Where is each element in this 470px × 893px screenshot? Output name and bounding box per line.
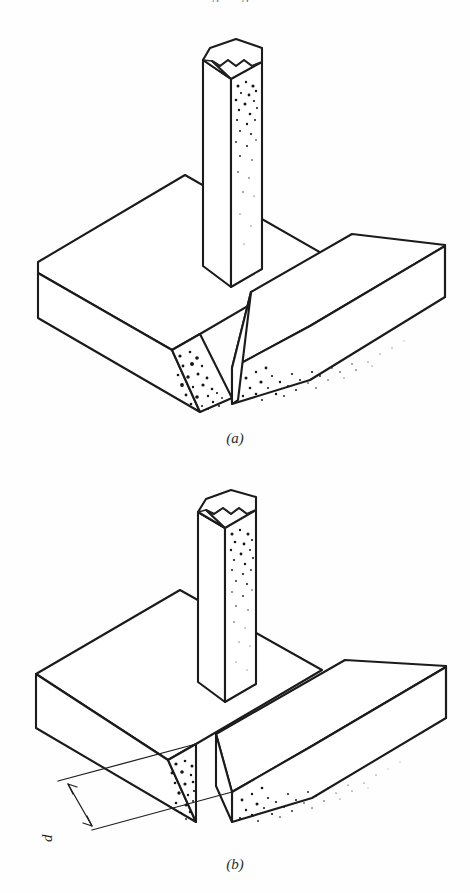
figure-panel-a xyxy=(0,0,470,470)
figure-caption-b: (b) xyxy=(0,856,470,873)
figure-caption-a: (a) xyxy=(0,430,470,447)
vertical-bar-a xyxy=(203,39,262,287)
root-opening-label: d xyxy=(39,834,55,842)
figure-panel-b: d xyxy=(0,470,470,893)
figure-page: g g xyxy=(0,0,470,893)
